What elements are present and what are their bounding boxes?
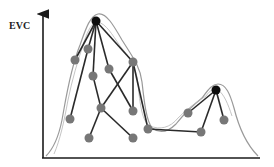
gray-node bbox=[89, 72, 98, 81]
edge bbox=[93, 76, 101, 108]
gray-node bbox=[129, 58, 138, 67]
gray-node bbox=[144, 125, 153, 134]
edge bbox=[133, 62, 148, 129]
edge bbox=[101, 108, 133, 138]
gray-node bbox=[71, 56, 80, 65]
gray-node bbox=[129, 134, 138, 143]
peak-node bbox=[212, 86, 221, 95]
gray-node bbox=[66, 115, 75, 124]
gray-node bbox=[129, 107, 138, 116]
edge bbox=[75, 21, 96, 60]
gray-node bbox=[84, 45, 93, 54]
edge bbox=[216, 90, 224, 120]
gray-node bbox=[85, 134, 94, 143]
tree-landscape-plot bbox=[0, 0, 274, 167]
gray-node bbox=[197, 128, 206, 137]
gray-node bbox=[97, 104, 106, 113]
envelope-curve bbox=[46, 14, 258, 156]
gray-node bbox=[184, 109, 193, 118]
gray-node bbox=[105, 65, 114, 74]
edge bbox=[89, 108, 101, 138]
peak-node bbox=[92, 17, 101, 26]
gray-node bbox=[220, 116, 229, 125]
